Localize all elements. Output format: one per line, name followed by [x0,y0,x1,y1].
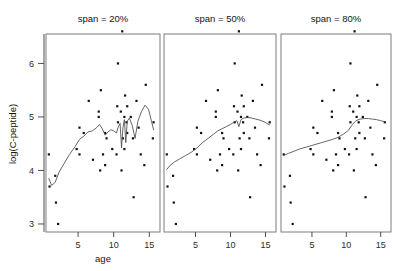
data-point [249,196,251,198]
data-point [352,110,354,112]
chart-canvas: log(C-peptide) age 3456 span = 20%51015s… [0,0,396,271]
data-point [349,105,351,107]
loess-smooth-curve [284,119,385,156]
data-point [261,84,263,86]
data-point [55,201,57,203]
panel-frame [164,34,276,232]
data-point [130,116,132,118]
data-point [260,164,262,166]
x-tick-label: 10 [341,240,351,250]
data-point [216,169,218,171]
panel-strip-title: span = 50% [195,13,246,24]
x-axis-title: age [95,253,111,264]
data-point [126,105,128,107]
chart-panel: span = 50%51015 [164,13,276,250]
data-point [132,137,134,139]
data-point [143,164,145,166]
x-axis: 51015 [76,232,155,250]
panel-frame [46,34,160,232]
data-point [364,137,366,139]
data-point [120,110,122,112]
data-point [248,137,250,139]
loess-smooth-curve [49,105,154,185]
data-point [121,30,123,32]
data-point [78,153,80,155]
data-point [140,153,142,155]
data-point [54,175,56,177]
data-point [256,153,258,155]
data-point [243,132,245,134]
data-point [269,121,271,123]
x-tick-label: 10 [109,240,119,250]
data-point [335,153,337,155]
data-point [237,169,239,171]
data-point [268,137,270,139]
x-tick-label: 15 [260,240,270,250]
y-axis-title: log(C-peptide) [7,104,18,164]
data-point [344,148,346,150]
data-point [123,148,125,150]
data-point [221,132,223,134]
data-point [135,100,137,102]
data-point [219,153,221,155]
x-tick-label: 5 [76,240,81,250]
data-point [354,137,356,139]
data-point [166,153,168,155]
data-point [196,127,198,129]
data-point [367,100,369,102]
data-point [209,159,211,161]
x-axis: 51015 [193,232,271,250]
data-point [104,164,106,166]
x-tick-label: 15 [144,240,154,250]
data-point [222,137,224,139]
data-point [353,30,355,32]
data-point [98,116,100,118]
data-point [48,185,50,187]
data-point [309,148,311,150]
data-point [331,116,333,118]
scatter-points [166,30,271,225]
panel-frame [281,34,391,232]
data-point [356,94,358,96]
data-point [217,89,219,91]
data-point [358,132,360,134]
data-point [369,127,371,129]
data-point [239,137,241,139]
data-point [48,153,50,155]
data-point [325,159,327,161]
data-point [123,116,125,118]
data-point [175,223,177,225]
y-axis: 3456 [29,34,44,232]
data-point [241,94,243,96]
data-point [117,121,119,123]
data-point [358,121,360,123]
data-point [289,175,291,177]
data-point [331,110,333,112]
data-point [215,110,217,112]
x-tick-label: 15 [376,240,386,250]
data-point [88,100,90,102]
x-tick-label: 10 [225,240,235,250]
data-point [116,105,118,107]
x-tick-label: 5 [193,240,198,250]
data-point [232,153,234,155]
data-point [117,62,119,64]
data-point [236,110,238,112]
y-tick-group: 3456 [29,59,44,230]
data-point [348,153,350,155]
data-point [221,164,223,166]
data-point [145,84,147,86]
data-point [337,132,339,134]
data-point [83,132,85,134]
data-point [166,185,168,187]
data-point [353,169,355,171]
data-point [115,153,117,155]
data-point [200,132,202,134]
data-point [316,132,318,134]
data-point [228,148,230,150]
data-point [138,127,140,129]
data-point [349,62,351,64]
data-point [290,201,292,203]
scatter-points [283,30,386,225]
chart-panel: span = 80%51015 [281,13,391,250]
